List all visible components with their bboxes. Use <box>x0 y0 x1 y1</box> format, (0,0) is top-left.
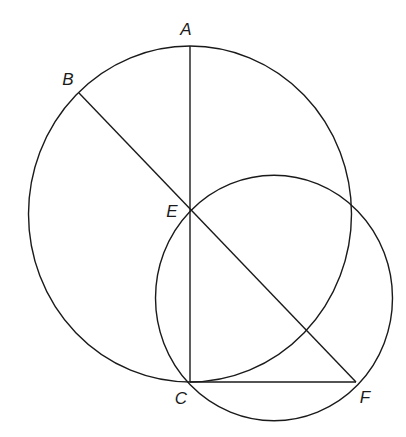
point-label-A: A <box>179 20 191 39</box>
geometry-diagram: ABECF <box>0 0 406 437</box>
point-label-C: C <box>175 389 188 408</box>
segment-BF <box>79 93 356 382</box>
point-label-E: E <box>166 202 178 221</box>
point-label-B: B <box>62 70 73 89</box>
point-label-F: F <box>360 388 372 407</box>
small-circle <box>156 175 393 420</box>
